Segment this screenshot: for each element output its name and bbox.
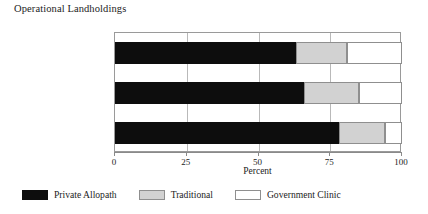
bar-segment (385, 122, 402, 144)
bar-segment (339, 122, 385, 144)
chart-container: Operational Landholdings Less than 0.50 … (0, 0, 428, 214)
bar-segment (115, 122, 339, 144)
plot-area: Less than 0.50 Acres0.51 to 2.5 AcresMor… (114, 32, 401, 152)
legend-swatch-icon (139, 190, 165, 200)
legend-swatch-icon (22, 190, 48, 200)
x-tick (401, 152, 402, 156)
x-axis-title: Percent (114, 166, 401, 176)
legend-item[interactable]: Government Clinic (235, 189, 341, 200)
bar-segment (347, 42, 402, 64)
legend-label: Traditional (171, 189, 213, 200)
stacked-bar (115, 82, 402, 104)
stacked-bar (115, 42, 402, 64)
x-tick (186, 152, 187, 156)
legend-label: Private Allopath (54, 189, 117, 200)
bar-row: 0.51 to 2.5 Acres (115, 73, 400, 113)
x-tick (258, 152, 259, 156)
bar-segment (296, 42, 348, 64)
legend-item[interactable]: Traditional (139, 189, 213, 200)
chart-legend: Private AllopathTraditionalGovernment Cl… (22, 189, 363, 200)
bar-segment (115, 42, 296, 64)
legend-item[interactable]: Private Allopath (22, 189, 117, 200)
chart-title: Operational Landholdings (14, 3, 126, 14)
bar-segment (359, 82, 402, 104)
x-tick (329, 152, 330, 156)
bar-segment (304, 82, 359, 104)
stacked-bar (115, 122, 402, 144)
legend-label: Government Clinic (267, 189, 341, 200)
bar-row: More than 2.5 Acres (115, 113, 400, 153)
legend-swatch-icon (235, 190, 261, 200)
bar-segment (115, 82, 304, 104)
x-tick (114, 152, 115, 156)
x-axis: 0255075100 (114, 152, 401, 153)
bar-row: Less than 0.50 Acres (115, 33, 400, 73)
